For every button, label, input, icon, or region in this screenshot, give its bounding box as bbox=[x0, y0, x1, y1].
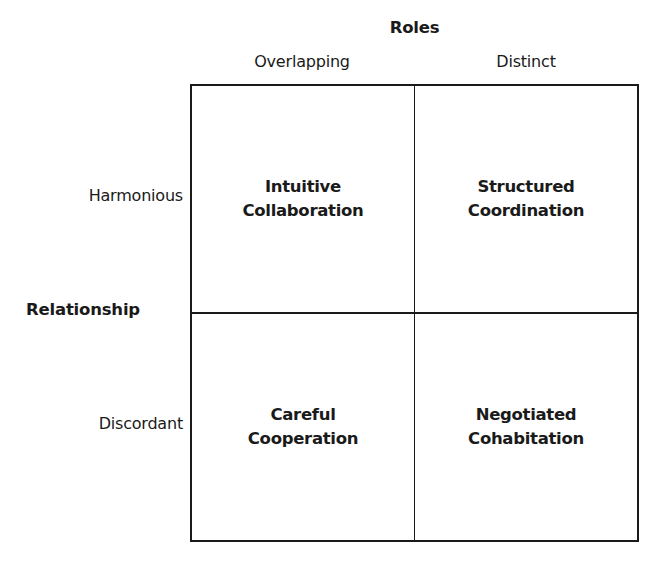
matrix-grid: Intuitive Collaboration Structured Coord… bbox=[190, 84, 639, 542]
cell-title-line-1: Structured bbox=[468, 175, 584, 199]
row-label-harmonious: Harmonious bbox=[89, 186, 183, 205]
cell-harmonious-distinct: Structured Coordination bbox=[415, 86, 637, 314]
cell-title-line-1: Intuitive bbox=[242, 175, 363, 199]
column-label-distinct: Distinct bbox=[414, 52, 638, 71]
cell-title-line-1: Negotiated bbox=[468, 403, 584, 427]
column-axis-title: Roles bbox=[190, 18, 639, 37]
row-label-discordant: Discordant bbox=[99, 414, 183, 433]
cell-title-line-2: Coordination bbox=[468, 199, 584, 223]
cell-title-line-2: Collaboration bbox=[242, 199, 363, 223]
row-axis-title: Relationship bbox=[26, 300, 140, 319]
column-label-overlapping: Overlapping bbox=[190, 52, 414, 71]
cell-title-line-1: Careful bbox=[248, 403, 358, 427]
cell-discordant-overlapping: Careful Cooperation bbox=[192, 314, 415, 540]
cell-harmonious-overlapping: Intuitive Collaboration bbox=[192, 86, 415, 314]
cell-title-line-2: Cooperation bbox=[248, 427, 358, 451]
cell-discordant-distinct: Negotiated Cohabitation bbox=[415, 314, 637, 540]
cell-title-line-2: Cohabitation bbox=[468, 427, 584, 451]
